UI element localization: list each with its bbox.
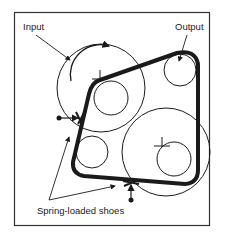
output-label: Output <box>175 21 204 32</box>
lower-right-pulley <box>157 142 191 176</box>
lower-right-pulley-mark <box>154 137 170 147</box>
output-leader <box>179 35 187 61</box>
spring-shoe-left <box>57 112 85 124</box>
shoes-leader-bottom <box>49 186 115 200</box>
input-leader <box>36 35 70 60</box>
lower-left-pulley <box>76 136 108 168</box>
spring-shoe-bottom <box>123 180 139 203</box>
input-label: Input <box>23 21 44 32</box>
drive-belt <box>73 52 198 184</box>
shoes-label: Spring-loaded shoes <box>37 205 124 216</box>
input-outer-circle <box>57 44 145 132</box>
rotation-arrow-icon <box>70 45 109 81</box>
belt-drive-diagram: Input Output Spring-loaded shoes <box>0 0 232 237</box>
shoes-leader-left <box>49 137 69 200</box>
input-pulley <box>94 81 128 115</box>
